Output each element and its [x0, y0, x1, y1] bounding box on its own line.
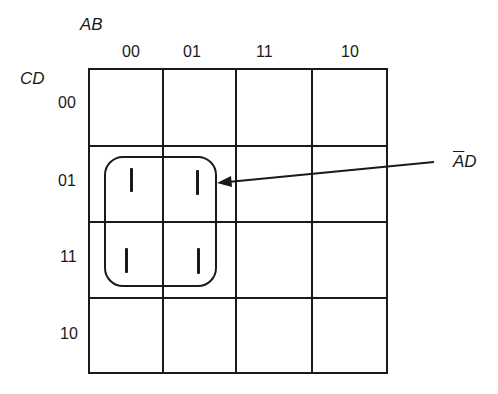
- cell-value-11-00: [125, 248, 128, 273]
- cell-value-11-01: [197, 248, 200, 274]
- term-a-bar: A: [453, 152, 464, 171]
- cell-value-01-00: [130, 168, 133, 192]
- cell-value-01-01: [196, 170, 199, 195]
- arrow: [217, 162, 434, 187]
- kmap-grid: [0, 0, 498, 394]
- term-d: D: [464, 152, 476, 171]
- group-term-label: AD: [453, 153, 477, 170]
